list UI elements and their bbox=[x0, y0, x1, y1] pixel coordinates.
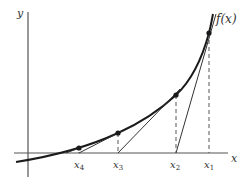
curve-point-x2 bbox=[173, 92, 178, 97]
curve-label: f(x) bbox=[215, 12, 237, 26]
label-x4: x4 bbox=[74, 159, 85, 172]
function-curve bbox=[16, 14, 213, 162]
curve-point-x4 bbox=[76, 145, 81, 150]
tangent-line-3 bbox=[79, 131, 122, 153]
curve-point-x3 bbox=[115, 130, 120, 135]
y-axis-label: y bbox=[16, 7, 24, 20]
tangent-line-2 bbox=[118, 89, 180, 153]
label-x2: x2 bbox=[170, 159, 180, 172]
newton-method-diagram: y x f(x) x1 x2 x3 x4 bbox=[0, 0, 248, 178]
label-x1: x1 bbox=[204, 159, 214, 172]
label-x3: x3 bbox=[113, 159, 123, 172]
curve-point-x1 bbox=[206, 30, 211, 35]
x-axis-label: x bbox=[231, 152, 238, 165]
